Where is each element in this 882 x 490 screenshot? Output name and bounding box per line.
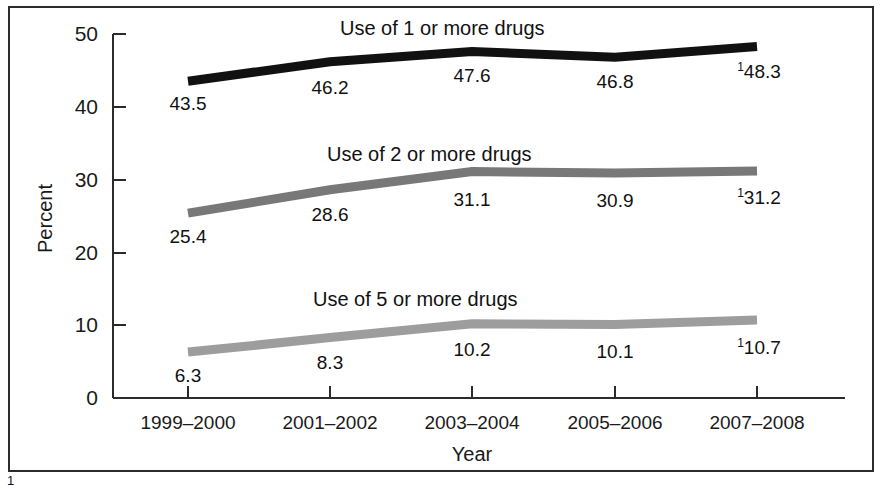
x-axis-ticks (188, 386, 757, 398)
point-label-s1-2003-2004: 47.6 (412, 66, 532, 86)
figure-footnote-marker: 1 (7, 474, 14, 488)
y-tick-label-50: 50 (42, 23, 98, 44)
figure-container: 50 40 30 20 10 0 Percent 1999–2000 2001–… (0, 0, 882, 490)
y-tick-label-40: 40 (42, 96, 98, 117)
footnote-marker-s2: 1 (737, 186, 744, 200)
point-label-s2-2005-2006: 30.9 (555, 191, 675, 211)
footnote-marker-s3: 1 (737, 336, 744, 350)
point-label-s3-2005-2006: 10.1 (555, 342, 675, 362)
series-label-1-or-more-drugs: Use of 1 or more drugs (340, 17, 545, 39)
point-label-s2-2001-2002: 28.6 (270, 205, 390, 225)
point-label-s3-value: 10.7 (744, 337, 781, 358)
point-label-s2-2007-2008: 131.2 (699, 188, 819, 208)
x-tick-label-2001-2002: 2001–2002 (250, 413, 410, 433)
point-label-s3-2007-2008: 110.7 (699, 338, 819, 358)
point-label-s2-1999-2000: 25.4 (128, 227, 248, 247)
x-tick-label-2007-2008: 2007–2008 (677, 413, 837, 433)
point-label-s2-value: 31.2 (744, 187, 781, 208)
y-axis-title: Percent (34, 169, 57, 269)
point-label-s3-1999-2000: 6.3 (128, 366, 248, 386)
point-label-s1-2007-2008: 148.3 (699, 62, 819, 82)
point-label-s1-1999-2000: 43.5 (128, 94, 248, 114)
series-label-2-or-more-drugs: Use of 2 or more drugs (327, 143, 532, 165)
point-label-s1-2005-2006: 46.8 (555, 72, 675, 92)
y-axis-ticks (113, 34, 126, 398)
x-tick-label-2003-2004: 2003–2004 (392, 413, 552, 433)
y-tick-label-10: 10 (42, 314, 98, 335)
x-tick-label-1999-2000: 1999–2000 (108, 413, 268, 433)
point-label-s1-2001-2002: 46.2 (270, 78, 390, 98)
y-tick-label-0: 0 (42, 387, 98, 408)
point-label-s3-2001-2002: 8.3 (270, 353, 390, 373)
x-tick-label-2005-2006: 2005–2006 (535, 413, 695, 433)
series-label-5-or-more-drugs: Use of 5 or more drugs (313, 288, 518, 310)
footnote-marker-s1: 1 (737, 60, 744, 74)
point-label-s2-2003-2004: 31.1 (412, 190, 532, 210)
x-axis-title: Year (392, 443, 552, 466)
point-label-s3-2003-2004: 10.2 (412, 340, 532, 360)
point-label-s1-value: 48.3 (744, 61, 781, 82)
